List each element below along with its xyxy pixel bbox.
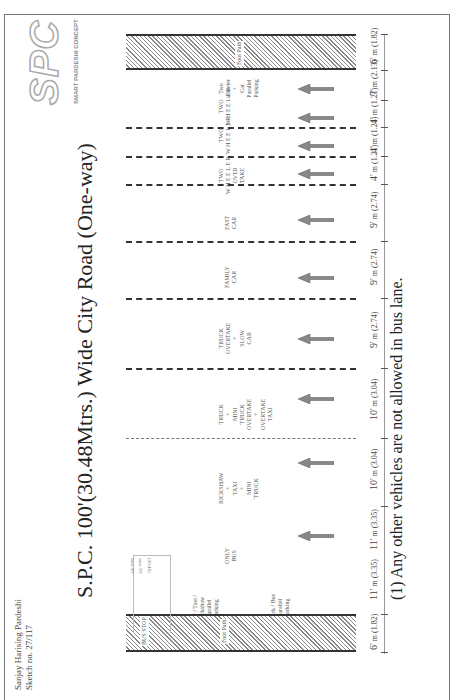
bus-lane-divider — [126, 438, 356, 439]
lane-label-truck: TRUCK+MINITRUCKOVERTAKE+OVERTAKETAXI — [218, 399, 274, 431]
direction-arrow-icon — [298, 273, 334, 283]
lane-label-only-bus: ONLYBUS — [224, 548, 238, 564]
dim-lane: 10' m (3.04) — [370, 379, 379, 420]
direction-arrow-icon — [298, 141, 334, 151]
bay-note: max.70' — [138, 558, 143, 574]
lane-label-rickshaw: RICKSHAW+TAXI+MINITRUCK — [218, 472, 260, 504]
sketch-number: Sketch no. 27/117 — [24, 599, 35, 690]
lane-divider — [126, 368, 356, 370]
lane-divider — [126, 241, 356, 243]
direction-arrow-icon — [298, 458, 334, 468]
dim-footpath-bottom: 6' m (1.82) — [370, 614, 379, 650]
dim-footpath-top: 6' m (1.82) — [370, 28, 379, 64]
direction-arrow-icon — [298, 215, 334, 225]
lane-label-family-car: FAMILYCAR — [224, 266, 238, 288]
author-block: Sanjay Harising Pardeshi Sketch no. 27/1… — [13, 599, 35, 690]
author-name: Sanjay Harising Pardeshi — [13, 599, 24, 690]
page-title: S.P.C. 100'(30.48Mtrs.) Wide City Road (… — [72, 143, 98, 598]
direction-arrow-icon — [298, 169, 334, 179]
lane-label-fast-car: FASTCAR — [224, 216, 238, 230]
direction-arrow-icon — [298, 84, 334, 94]
dim-lane: 9' m (2.74) — [370, 249, 379, 285]
direction-arrow-icon — [298, 334, 334, 344]
bay-note: max.30' — [130, 558, 135, 574]
dim-lane: 9' m (2.74) — [370, 192, 379, 228]
lane-divider — [126, 127, 356, 129]
logo-subtitle: SMART PARDESHI CONCEPT — [64, 19, 82, 104]
dim-lane: 11' m (3.35) — [370, 509, 379, 550]
dim-lane: 4' m (1.21) — [370, 145, 379, 181]
lane-divider — [126, 298, 356, 300]
lane-label-two-wheeler: TWOW H E E L E R — [218, 117, 232, 154]
bay-note: (30.48) — [147, 558, 152, 573]
spc-logo: SPC — [22, 20, 67, 105]
logo-text: SPC — [22, 20, 66, 105]
footpath-top: Foot Path — [126, 34, 356, 70]
footpath-label: Foot Path — [220, 619, 229, 644]
direction-arrow-icon — [298, 394, 334, 404]
footpath-label: Foot Path — [235, 41, 244, 66]
direction-arrow-icon — [298, 113, 334, 123]
dim-lane: 11' m (3.35) — [370, 559, 379, 600]
lane-label-truck-overtake: TRUCKOVERTAKE+SLOWCAR — [218, 323, 253, 355]
lane-label-two-wheeler-overtake: TWOW H E E L E ROVERTAKE — [218, 157, 246, 194]
dim-lane: 9' m (2.74) — [370, 312, 379, 348]
direction-arrow-icon — [298, 531, 334, 541]
footnote: (1) Any other vehicles are not allowed i… — [388, 277, 406, 600]
dim-lane: 10' m (3.04) — [370, 449, 379, 490]
